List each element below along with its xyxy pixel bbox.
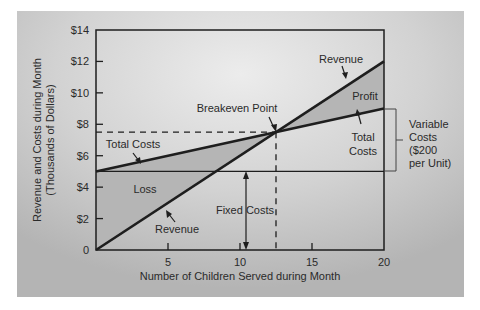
total-costs-label-right-2: Costs [349,145,378,157]
total-costs-label-left: Total Costs [106,138,161,150]
x-tick-label: 15 [306,256,318,268]
variable-costs-label-4: per Unit) [409,157,451,169]
breakeven-chart: 0$2$4$6$8$10$12$14 5101520 Revenue Profi… [0,0,480,310]
variable-costs-label-1: Variable [409,118,449,130]
x-axis-title: Number of Children Served during Month [140,270,341,282]
y-tick-label: $4 [77,181,89,193]
revenue-label-top: Revenue [319,53,363,65]
x-tick-label: 5 [165,256,171,268]
revenue-label-bottom: Revenue [155,223,199,235]
total-costs-label-right-1: Total [351,131,374,143]
y-tick-label: $12 [71,55,89,67]
x-tick-label: 20 [378,256,390,268]
y-tick-label: $2 [77,213,89,225]
y-tick-label: 0 [83,244,89,256]
profit-label: Profit [352,90,378,102]
variable-costs-label-2: Costs [409,131,438,143]
x-tick-label: 10 [234,256,246,268]
breakeven-label: Breakeven Point [197,102,278,114]
y-tick-label: $10 [71,87,89,99]
y-axis-title-line-2: (Thousands of Dollars) [44,84,56,195]
fixed-costs-label: Fixed Costs [216,204,275,216]
y-axis-title-line-1: Revenue and Costs during Month [31,58,43,222]
y-tick-label: $8 [77,118,89,130]
y-tick-label: $14 [71,24,89,36]
loss-label: Loss [133,183,157,195]
y-tick-label: $6 [77,150,89,162]
variable-costs-label-3: ($200 [409,144,437,156]
